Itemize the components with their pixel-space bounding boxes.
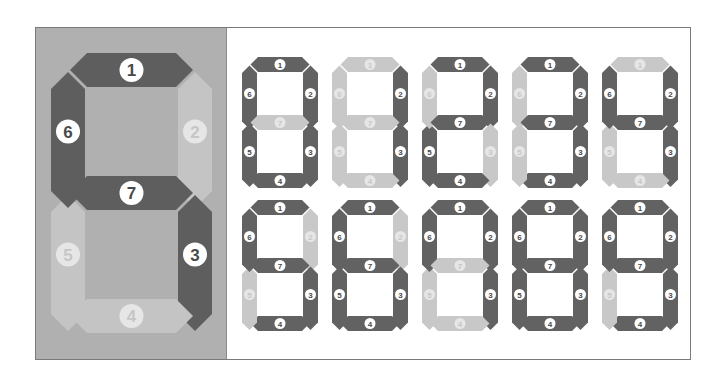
segment-3-label: 3 — [398, 148, 403, 157]
segment-2-label: 2 — [578, 90, 583, 99]
segment-5-label: 5 — [337, 148, 342, 157]
segment-4-label: 4 — [638, 320, 643, 329]
segment-1-label: 1 — [458, 61, 463, 70]
segment-2-label: 2 — [308, 90, 313, 99]
segment-7-label: 7 — [368, 119, 373, 128]
segment-5-label: 5 — [337, 291, 342, 300]
segment-5-label: 5 — [517, 291, 522, 300]
segment-6-label: 6 — [607, 90, 612, 99]
segment-2-label: 2 — [308, 233, 313, 242]
segment-4-label: 4 — [458, 320, 463, 329]
segment-7-label: 7 — [458, 262, 463, 271]
digit-example-5: 1234567 — [242, 200, 318, 331]
segment-1-label: 1 — [368, 204, 373, 213]
segment-2-label: 2 — [488, 233, 493, 242]
segment-1-label: 1 — [368, 61, 373, 70]
segment-5-label: 5 — [247, 148, 252, 157]
segment-3-label: 3 — [578, 291, 583, 300]
segment-1-label: 1 — [548, 61, 553, 70]
segment-6-label: 6 — [247, 233, 252, 242]
segment-5-label: 5 — [607, 291, 612, 300]
segment-7-label: 7 — [368, 262, 373, 271]
segment-3-label: 3 — [398, 291, 403, 300]
digit-example-9: 1234567 — [602, 200, 678, 331]
segment-5-label: 5 — [607, 148, 612, 157]
segment-6-label: 6 — [427, 90, 432, 99]
segment-2-label: 2 — [488, 90, 493, 99]
segment-3-label: 3 — [308, 291, 313, 300]
segment-6-label: 6 — [517, 90, 522, 99]
segment-1-label: 1 — [278, 61, 283, 70]
segment-4-label: 4 — [548, 320, 553, 329]
segment-7-label: 7 — [548, 262, 553, 271]
digit-example-7: 1234567 — [422, 200, 498, 331]
digit-example-2: 1234567 — [422, 57, 498, 188]
digit-example-3: 1234567 — [512, 57, 588, 188]
segment-3-label: 3 — [668, 291, 673, 300]
segment-3-label: 3 — [488, 148, 493, 157]
segment-4-label: 4 — [638, 177, 643, 186]
segment-1-label: 1 — [638, 61, 643, 70]
segment-5-label: 5 — [247, 291, 252, 300]
segment-6-label: 6 — [337, 90, 342, 99]
digit-example-1: 1234567 — [332, 57, 408, 188]
segment-7-label: 7 — [278, 262, 283, 271]
segment-2-label: 2 — [398, 90, 403, 99]
segment-6-label: 6 — [607, 233, 612, 242]
segment-4-label: 4 — [458, 177, 463, 186]
segment-3-label: 3 — [488, 291, 493, 300]
segment-4-label: 4 — [368, 320, 373, 329]
digit-example-6: 1234567 — [332, 200, 408, 331]
segment-1-label: 1 — [278, 204, 283, 213]
segment-5-label: 5 — [427, 291, 432, 300]
segment-2-label: 2 — [668, 90, 673, 99]
digit-example-0: 1234567 — [242, 57, 318, 188]
segment-5-label: 5 — [517, 148, 522, 157]
segment-6-label: 6 — [427, 233, 432, 242]
segment-4-label: 4 — [278, 177, 283, 186]
segment-1-label: 1 — [548, 204, 553, 213]
segment-4-label: 4 — [548, 177, 553, 186]
segment-2-label: 2 — [578, 233, 583, 242]
segment-4-label: 4 — [368, 177, 373, 186]
segment-7-label: 7 — [458, 119, 463, 128]
segment-7-label: 7 — [548, 119, 553, 128]
segment-7-label: 7 — [638, 262, 643, 271]
segment-6-label: 6 — [337, 233, 342, 242]
segment-3-label: 3 — [578, 148, 583, 157]
segment-7-label: 7 — [278, 119, 283, 128]
segment-6-label: 6 — [247, 90, 252, 99]
segment-3-label: 3 — [668, 148, 673, 157]
segment-1-label: 1 — [638, 204, 643, 213]
digit-example-8: 1234567 — [512, 200, 588, 331]
segment-7-label: 7 — [638, 119, 643, 128]
segment-2-label: 2 — [668, 233, 673, 242]
segment-4-label: 4 — [278, 320, 283, 329]
digit-examples-grid: 1234567123456712345671234567123456712345… — [36, 28, 690, 359]
digit-example-4: 1234567 — [602, 57, 678, 188]
diagram-frame: 1234567 12345671234567123456712345671234… — [35, 27, 691, 360]
segment-1-label: 1 — [458, 204, 463, 213]
segment-3-label: 3 — [308, 148, 313, 157]
segment-5-label: 5 — [427, 148, 432, 157]
segment-2-label: 2 — [398, 233, 403, 242]
segment-6-label: 6 — [517, 233, 522, 242]
